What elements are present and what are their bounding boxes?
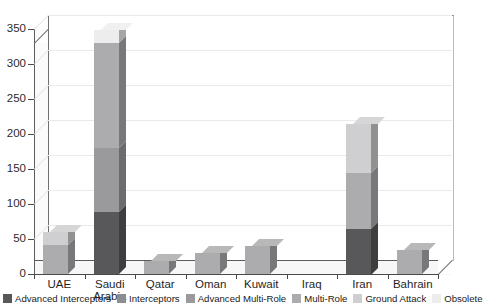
x-axis-right-connector — [438, 260, 458, 280]
y-axis-tick-mark — [28, 64, 34, 65]
bar-saudi-arabia[interactable] — [94, 30, 119, 274]
y-axis-tick-mark — [28, 169, 34, 170]
bar-segment-face — [144, 261, 169, 274]
bar-segment[interactable] — [195, 253, 220, 274]
y-axis-tick-label: 0 — [0, 268, 26, 280]
y-axis-tick-label: 100 — [0, 198, 26, 210]
bar-segment-face — [346, 124, 371, 173]
legend-item-multi-role[interactable]: Multi-Role — [292, 294, 347, 303]
bar-segment-side — [119, 141, 126, 212]
legend-label: Interceptors — [129, 294, 180, 303]
legend-swatch — [432, 294, 441, 303]
y-axis-tick-mark — [28, 239, 34, 240]
bar-segment[interactable] — [94, 148, 119, 212]
legend-label: Multi-Role — [304, 294, 347, 303]
y-axis-tick-label: 50 — [0, 233, 26, 245]
legend-label: Obsolete — [444, 294, 482, 303]
legend-item-interceptors[interactable]: Interceptors — [117, 294, 180, 303]
legend-swatch — [186, 294, 195, 303]
bar-segment-face — [346, 229, 371, 275]
y-axis-top-connector — [34, 29, 48, 43]
bar-segment-side — [371, 166, 378, 229]
bar-segment[interactable] — [43, 232, 68, 245]
bar-segment[interactable] — [346, 124, 371, 173]
legend-item-advanced-multi-role[interactable]: Advanced Multi-Role — [186, 294, 287, 303]
bar-segment[interactable] — [346, 229, 371, 275]
bar-segment-side — [371, 222, 378, 275]
bar-segment-face — [94, 212, 119, 274]
bar-segment[interactable] — [245, 246, 270, 274]
legend-swatch — [3, 294, 12, 303]
bar-segment[interactable] — [94, 30, 119, 43]
gridline-depth-connector — [34, 15, 49, 30]
bar-uae[interactable] — [43, 232, 68, 274]
legend-label: Advanced Multi-Role — [198, 294, 287, 303]
bar-segment-side — [119, 205, 126, 274]
y-axis-tick-label: 150 — [0, 163, 26, 175]
bar-segment-face — [94, 30, 119, 43]
bar-iran[interactable] — [346, 124, 371, 275]
bar-segment-face — [94, 43, 119, 148]
bar-segment-face — [43, 245, 68, 274]
bar-segment-face — [397, 250, 422, 274]
legend-swatch — [353, 294, 362, 303]
bar-segment-face — [346, 173, 371, 229]
y-axis-tick-mark — [28, 99, 34, 100]
bar-oman[interactable] — [195, 253, 220, 274]
y-axis-tick-mark — [28, 29, 34, 30]
gridline — [48, 15, 452, 16]
bar-segment-side — [371, 117, 378, 173]
bar-kuwait[interactable] — [245, 246, 270, 274]
bar-segment[interactable] — [144, 261, 169, 274]
y-axis-tick-label: 250 — [0, 93, 26, 105]
chart-legend: Advanced InterceptorsInterceptorsAdvance… — [0, 289, 463, 308]
y-axis-tick-label: 300 — [0, 58, 26, 70]
legend-label: Ground Attack — [365, 294, 426, 303]
bar-segment-face — [245, 246, 270, 274]
y-axis-tick-mark — [28, 204, 34, 205]
y-axis-tick-label: 200 — [0, 128, 26, 140]
bar-segment-side — [119, 36, 126, 148]
bar-bahrain[interactable] — [397, 250, 422, 274]
x-axis-tick-mark — [438, 274, 439, 279]
bar-segment[interactable] — [94, 43, 119, 148]
bar-segment-face — [195, 253, 220, 274]
legend-swatch — [117, 294, 126, 303]
bar-segment[interactable] — [94, 212, 119, 274]
bar-segment[interactable] — [397, 250, 422, 274]
legend-swatch — [292, 294, 301, 303]
bar-segment[interactable] — [346, 173, 371, 229]
bar-qatar[interactable] — [144, 261, 169, 274]
plot-area: 050100150200250300350 UAESaudiArabiaQata… — [0, 0, 463, 285]
bar-segment-face — [94, 148, 119, 212]
bar-segment-face — [43, 232, 68, 245]
legend-item-advanced-interceptors[interactable]: Advanced Interceptors — [3, 294, 111, 303]
legend-label: Advanced Interceptors — [15, 294, 111, 303]
bar-segment[interactable] — [43, 245, 68, 274]
legend-item-ground-attack[interactable]: Ground Attack — [353, 294, 426, 303]
legend-item-obsolete[interactable]: Obsolete — [432, 294, 482, 303]
y-axis-tick-mark — [28, 134, 34, 135]
y-axis-tick-label: 350 — [0, 23, 26, 35]
